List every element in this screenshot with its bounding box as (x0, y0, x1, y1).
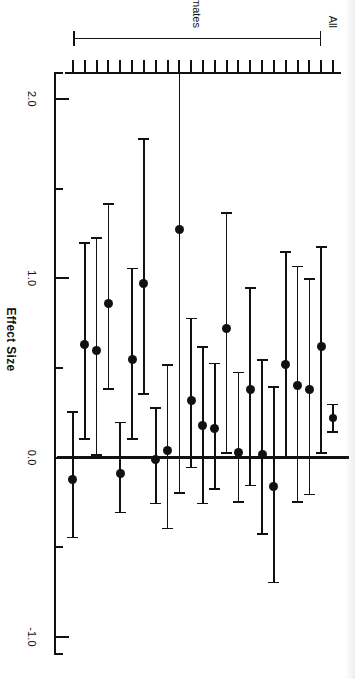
ci-cap-upper (115, 422, 126, 424)
effect-size-marker (80, 340, 89, 349)
ci-cap-lower (127, 438, 138, 440)
axis-tick (56, 367, 63, 369)
value-axis-line (54, 72, 56, 655)
ci-cap-upper (328, 404, 339, 406)
effect-size-marker (317, 342, 326, 351)
axis-tick (56, 277, 69, 279)
group-bracket-cap-end (73, 31, 75, 46)
category-tick (273, 60, 275, 72)
confidence-interval-line (131, 268, 133, 440)
category-tick (107, 60, 109, 72)
axis-tick-label: 2.0 (26, 79, 38, 119)
ci-cap-upper (162, 364, 173, 366)
effect-size-marker (92, 346, 101, 355)
ci-cap-lower (292, 501, 303, 503)
ci-cap-lower (186, 467, 197, 469)
ci-cap-lower (79, 438, 90, 440)
category-tick (119, 60, 121, 72)
effect-size-marker (269, 482, 278, 491)
ci-cap-lower (221, 452, 232, 454)
effect-size-marker (246, 385, 255, 394)
ci-cap-upper (150, 407, 161, 409)
group-label: Individual Trial Estimates (191, 0, 203, 28)
ci-cap-upper (209, 363, 220, 365)
ci-cap-lower (316, 452, 327, 454)
category-tick (202, 60, 204, 72)
effect-size-marker (128, 355, 137, 364)
axis-title: Effect Size (4, 0, 18, 679)
category-tick (308, 60, 310, 72)
ci-cap-upper (138, 138, 149, 140)
category-axis-line (65, 72, 341, 74)
confidence-interval-line (261, 359, 263, 535)
axis-tick-label: 1.0 (26, 258, 38, 298)
effect-size-marker (69, 475, 78, 484)
ci-cap-upper (127, 268, 138, 270)
category-tick (143, 60, 145, 72)
confidence-interval-line (179, 72, 181, 494)
ci-cap-lower (162, 528, 173, 530)
ci-cap-upper (186, 318, 197, 320)
category-tick (178, 60, 180, 72)
ci-cap-upper (103, 203, 114, 205)
ci-cap-upper (198, 346, 209, 348)
group-bracket-cap-start (320, 31, 322, 46)
effect-size-marker (210, 424, 219, 433)
ci-cap-lower (68, 537, 79, 539)
axis-tick-label: 0.0 (26, 438, 38, 478)
category-tick (297, 60, 299, 72)
category-tick (96, 60, 98, 72)
category-tick (249, 60, 251, 72)
category-tick (332, 60, 334, 72)
ci-cap-upper (233, 372, 244, 374)
ci-cap-lower (174, 492, 185, 494)
ci-cap-upper (304, 278, 315, 280)
plot-area: 2.01.00.0-1.0 Effect Size AllIndividual … (0, 0, 355, 679)
group-label: All (327, 16, 339, 28)
category-tick (226, 60, 228, 72)
category-tick (261, 60, 263, 72)
axis-tick-label: -1.0 (26, 617, 38, 657)
ci-cap-lower (280, 456, 291, 458)
ci-cap-upper (174, 72, 185, 74)
ci-cap-upper (68, 411, 79, 413)
effect-size-marker (222, 324, 231, 333)
effect-size-marker (293, 381, 302, 390)
confidence-interval-line (119, 422, 121, 513)
ci-cap-upper (245, 287, 256, 289)
ci-cap-lower (115, 512, 126, 514)
group-bracket (73, 38, 321, 39)
effect-size-marker (281, 360, 290, 369)
effect-size-marker (163, 446, 172, 455)
confidence-interval-line (143, 138, 145, 395)
rotated-chart-frame: 2.01.00.0-1.0 Effect Size AllIndividual … (0, 0, 355, 679)
ci-cap-upper (91, 237, 102, 239)
category-tick (155, 60, 157, 72)
axis-cap-right (54, 653, 63, 655)
ci-cap-lower (150, 503, 161, 505)
confidence-interval-line (108, 203, 110, 390)
ci-cap-lower (209, 488, 220, 490)
confidence-interval-line (285, 251, 287, 457)
confidence-interval-line (190, 318, 192, 469)
effect-size-marker (151, 455, 160, 464)
axis-tick (56, 188, 63, 190)
effect-size-marker (199, 421, 208, 430)
ci-cap-lower (138, 393, 149, 395)
effect-size-marker (187, 396, 196, 405)
ci-cap-lower (257, 533, 268, 535)
ci-cap-upper (292, 266, 303, 268)
ci-cap-upper (221, 212, 232, 214)
ci-cap-lower (103, 388, 114, 390)
axis-tick (56, 636, 69, 638)
ci-cap-upper (79, 242, 90, 244)
category-tick (320, 60, 322, 72)
ci-cap-upper (316, 246, 327, 248)
category-tick (84, 60, 86, 72)
effect-size-marker (305, 385, 314, 394)
ci-cap-lower (198, 503, 209, 505)
category-tick (131, 60, 133, 72)
effect-size-marker (175, 225, 184, 234)
category-tick (237, 60, 239, 72)
ci-cap-upper (268, 386, 279, 388)
